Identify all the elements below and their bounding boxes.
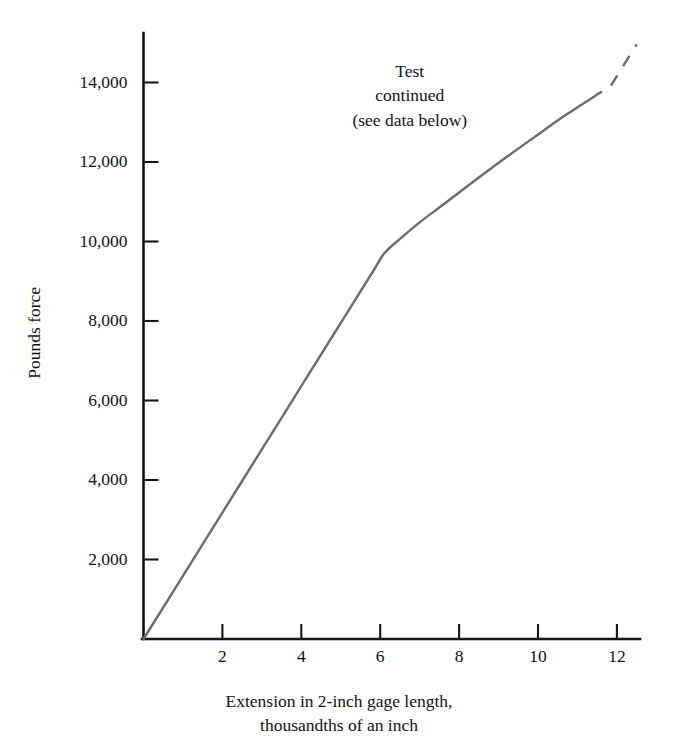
curve-dashed-extension	[611, 44, 637, 85]
y-axis-tick-label: 12,000	[0, 153, 128, 171]
y-axis-title: Pounds force	[23, 233, 47, 433]
annotation-line-3: (see data below)	[300, 108, 520, 133]
y-axis-tick-label: 14,000	[0, 74, 128, 92]
x-axis-title-line-2: thousandths of an inch	[0, 714, 678, 738]
test-continued-annotation: Test continued (see data below)	[300, 59, 520, 134]
x-axis-tick-label: 12	[577, 648, 657, 666]
x-axis-tick-label: 8	[419, 648, 499, 666]
x-axis-tick-label: 4	[261, 648, 341, 666]
x-axis-tick-label: 6	[340, 648, 420, 666]
y-axis-tick-label: 2,000	[0, 551, 128, 569]
x-axis-title-line-1: Extension in 2-inch gage length,	[0, 690, 678, 714]
load-extension-chart: 2,0004,0006,0008,00010,00012,00014,000 2…	[0, 0, 678, 748]
chart-series-group	[144, 44, 637, 639]
annotation-line-1: Test	[300, 59, 520, 84]
y-axis-tick-label: 6,000	[0, 392, 128, 410]
y-axis-tick-label: 8,000	[0, 312, 128, 330]
x-axis-ticks	[222, 624, 617, 638]
y-axis-ticks	[145, 83, 159, 560]
y-axis-tick-label: 10,000	[0, 233, 128, 251]
x-axis-tick-label: 2	[182, 648, 262, 666]
annotation-line-2: continued	[300, 83, 520, 108]
x-axis-title: Extension in 2-inch gage length, thousan…	[0, 690, 678, 737]
curve-load-extension	[144, 92, 602, 639]
y-axis-tick-label: 4,000	[0, 471, 128, 489]
x-axis-tick-label: 10	[498, 648, 578, 666]
